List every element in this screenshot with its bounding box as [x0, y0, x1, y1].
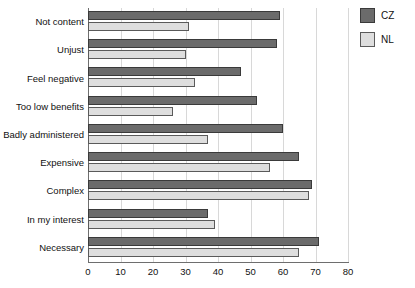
- x-tick-label-20: 20: [148, 266, 159, 278]
- bar-group: [88, 121, 348, 149]
- y-axis-label: Feel negative: [0, 74, 84, 84]
- bar-group: [88, 177, 348, 205]
- x-tick-label-10: 10: [115, 266, 126, 278]
- bar-group: [88, 64, 348, 92]
- y-axis-label: Badly administered: [0, 130, 84, 140]
- legend-swatch-icon: [360, 32, 375, 47]
- bar-nl: [88, 78, 195, 87]
- bar-cz: [88, 124, 283, 133]
- bar-cz: [88, 96, 257, 105]
- bar-cz: [88, 152, 299, 161]
- bar-cz: [88, 67, 241, 76]
- bar-nl: [88, 220, 215, 229]
- x-tick-label-70: 70: [310, 266, 321, 278]
- bar-cz: [88, 11, 280, 20]
- bar-nl: [88, 163, 270, 172]
- legend-item-cz[interactable]: CZ: [360, 8, 412, 23]
- bar-group: [88, 8, 348, 36]
- x-tick-label-40: 40: [213, 266, 224, 278]
- y-axis-label: Too low benefits: [0, 102, 84, 112]
- legend-label: CZ: [381, 10, 394, 21]
- y-axis-label: Expensive: [0, 158, 84, 168]
- bar-nl: [88, 22, 189, 31]
- bar-group: [88, 234, 348, 262]
- y-axis-label: Necessary: [0, 243, 84, 253]
- y-axis-label: Unjust: [0, 45, 84, 55]
- bar-nl: [88, 248, 299, 257]
- legend-item-nl[interactable]: NL: [360, 32, 412, 47]
- y-axis-label: In my interest: [0, 215, 84, 225]
- bar-group: [88, 93, 348, 121]
- bar-nl: [88, 50, 186, 59]
- x-tick-label-80: 80: [343, 266, 354, 278]
- x-axis-tick-labels: 01020304050607080: [88, 266, 348, 282]
- x-tick-label-30: 30: [180, 266, 191, 278]
- bar-nl: [88, 191, 309, 200]
- bar-cz: [88, 209, 208, 218]
- x-axis-line: [88, 262, 349, 263]
- bar-cz: [88, 39, 277, 48]
- x-tick-label-60: 60: [278, 266, 289, 278]
- bar-cz: [88, 237, 319, 246]
- legend-label: NL: [381, 34, 394, 45]
- x-tick-label-0: 0: [85, 266, 90, 278]
- y-axis-label: Complex: [0, 186, 84, 196]
- plot-area: [88, 8, 348, 262]
- bar-chart: Not contentUnjustFeel negativeToo low be…: [0, 0, 415, 288]
- bar-group: [88, 36, 348, 64]
- x-tick-label-50: 50: [245, 266, 256, 278]
- bar-nl: [88, 107, 173, 116]
- bar-nl: [88, 135, 208, 144]
- y-axis-label: Not content: [0, 17, 84, 27]
- bar-group: [88, 206, 348, 234]
- legend-swatch-icon: [360, 8, 375, 23]
- y-axis-category-labels: Not contentUnjustFeel negativeToo low be…: [0, 8, 84, 262]
- legend: CZNL: [360, 8, 412, 56]
- bar-group: [88, 149, 348, 177]
- gridline-80: [348, 8, 349, 262]
- bar-cz: [88, 180, 312, 189]
- bar-groups: [88, 8, 348, 262]
